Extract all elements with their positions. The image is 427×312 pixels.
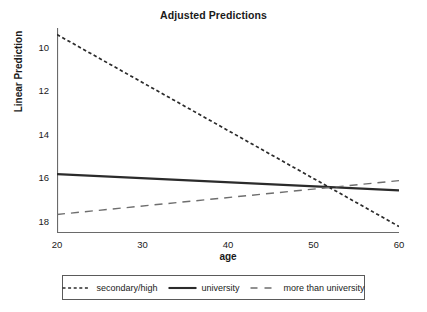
y-tick-label: 16 bbox=[27, 172, 49, 183]
legend-item-secondary-high: secondary/high bbox=[57, 276, 162, 299]
legend-item-more-than-university: more than university bbox=[245, 276, 370, 299]
chart-figure: Adjusted Predictions Linear Prediction a… bbox=[0, 0, 427, 312]
series-line bbox=[57, 174, 399, 190]
legend-label: university bbox=[202, 283, 240, 293]
legend-key-dotted-icon bbox=[62, 283, 91, 293]
x-tick-label: 40 bbox=[213, 239, 243, 250]
x-tick-label: 30 bbox=[128, 239, 158, 250]
x-tick-label: 50 bbox=[299, 239, 329, 250]
x-tick-label: 20 bbox=[42, 239, 72, 250]
legend-key-solid-icon bbox=[168, 283, 197, 293]
legend-key-dashed-icon bbox=[250, 283, 279, 293]
legend-label: secondary/high bbox=[96, 283, 157, 293]
chart-title: Adjusted Predictions bbox=[0, 9, 427, 21]
legend: secondary/high university more than univ… bbox=[62, 275, 365, 300]
y-axis-label: Linear Prediction bbox=[13, 12, 24, 132]
y-tick-label: 12 bbox=[27, 85, 49, 96]
plot-area bbox=[57, 28, 399, 233]
y-tick-label: 14 bbox=[27, 129, 49, 140]
y-tick-label: 18 bbox=[27, 216, 49, 227]
y-tick-label: 10 bbox=[27, 42, 49, 53]
legend-label: more than university bbox=[284, 283, 365, 293]
plot-canvas bbox=[57, 28, 399, 233]
legend-item-university: university bbox=[163, 276, 245, 299]
x-tick-label: 60 bbox=[384, 239, 414, 250]
x-axis-label: age bbox=[57, 251, 399, 262]
